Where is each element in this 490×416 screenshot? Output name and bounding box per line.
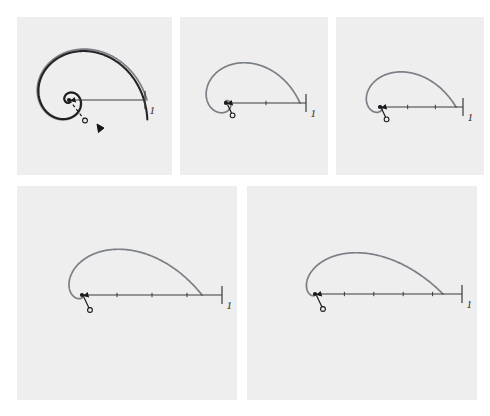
logarithmic-spiral-curve <box>69 249 202 298</box>
unit-tick-label: 1 <box>468 111 474 123</box>
unit-tick-label: 1 <box>467 298 473 310</box>
start-point-marker <box>230 113 235 118</box>
start-point-marker <box>88 308 93 313</box>
unit-tick-label: 1 <box>311 107 317 119</box>
logarithmic-spiral-curve <box>206 63 300 113</box>
spiral-panel-2: 1 <box>180 17 328 175</box>
spiral-panel-3: 1 <box>336 17 484 175</box>
spiral-centre-dot <box>313 292 317 296</box>
spiral-panel-1: 1 <box>17 17 172 175</box>
logarithmic-spiral-curve <box>37 49 147 120</box>
accent-spiral-overlay <box>32 41 160 140</box>
start-point-marker <box>83 118 88 123</box>
spiral-centre-dot <box>67 98 71 102</box>
spiral-figure: 11111 <box>0 0 490 416</box>
spiral-centre-dot <box>378 105 382 109</box>
spiral-centre-dot <box>224 101 228 105</box>
spiral-panel-5: 1 <box>247 186 477 400</box>
accent-spiral-arrowhead <box>97 124 104 133</box>
unit-tick-label: 1 <box>227 299 233 311</box>
spiral-centre-dot <box>80 293 84 297</box>
unit-tick-label: 1 <box>150 104 156 116</box>
start-point-marker <box>384 117 389 122</box>
spiral-panel-4: 1 <box>17 186 237 400</box>
logarithmic-spiral-curve <box>306 253 443 296</box>
start-point-marker <box>321 307 326 312</box>
